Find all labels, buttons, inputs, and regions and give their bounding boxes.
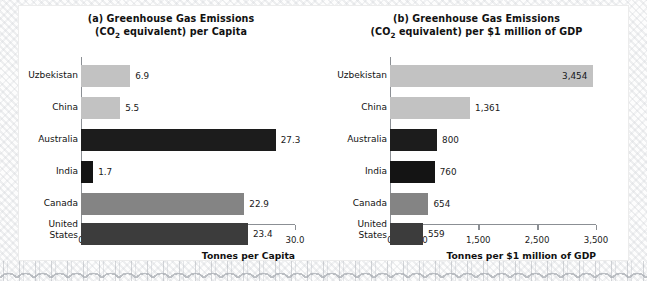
chart-b-title-line1: (b) Greenhouse Gas Emissions (324, 13, 629, 26)
bar (390, 129, 437, 151)
chart-b-title-line2: (CO2 equivalent) per $1 million of GDP (324, 26, 629, 42)
category-label: Australia (327, 134, 387, 145)
bar: 3,454 (390, 65, 593, 87)
chart-a-title-line2: (CO2 equivalent) per Capita (18, 26, 324, 42)
chart-a-title-line1: (a) Greenhouse Gas Emissions (18, 13, 324, 26)
bar (390, 223, 423, 245)
figure-container: (a) Greenhouse Gas Emissions (CO2 equiva… (0, 0, 647, 281)
bar-row: 1,361 (390, 97, 500, 119)
bar-value-label: 760 (440, 167, 457, 177)
bar (81, 161, 93, 183)
bar-value-label: 27.3 (281, 135, 301, 145)
charts-row: (a) Greenhouse Gas Emissions (CO2 equiva… (18, 5, 629, 255)
x-axis-tick (537, 225, 538, 230)
x-axis-tick-label: 1,500 (466, 235, 491, 245)
bar-value-label: 800 (442, 135, 459, 145)
bar-value-label: 23.4 (253, 229, 273, 239)
category-label: India (20, 166, 78, 177)
bar (81, 193, 244, 215)
bar-row: 27.3 (81, 129, 300, 151)
x-axis-tick (596, 225, 597, 230)
x-axis-tick-label: 30.0 (285, 235, 304, 245)
chart-panel-b: (b) Greenhouse Gas Emissions (CO2 equiva… (324, 5, 629, 255)
category-label: Australia (20, 134, 78, 145)
category-label: Canada (20, 198, 78, 209)
x-axis-tick-label: 2,500 (525, 235, 550, 245)
bar (81, 129, 276, 151)
bar (81, 65, 130, 87)
x-axis-tick (295, 225, 296, 230)
category-label: Canada (327, 198, 387, 209)
page-edge-scallop-decoration (0, 261, 647, 281)
bar-row: 760 (390, 161, 457, 183)
bar-row: 5.5 (81, 97, 139, 119)
category-label: United States (20, 219, 78, 240)
category-label: China (327, 102, 387, 113)
chart-a-title: (a) Greenhouse Gas Emissions (CO2 equiva… (18, 13, 324, 42)
bar-row: 23.4 (81, 223, 273, 245)
bar (81, 97, 120, 119)
bar-row: 559 (390, 223, 445, 245)
bar (390, 97, 470, 119)
bar-value-label: 5.5 (125, 103, 139, 113)
chart-b-x-axis-label: Tonnes per $1 million of GDP (447, 250, 597, 261)
chart-b-title-line2-pre: (CO (371, 26, 391, 37)
bar-row: 800 (390, 129, 459, 151)
bar-value-label: 1.7 (98, 167, 112, 177)
bar (81, 223, 248, 245)
bar-row: 22.9 (81, 193, 269, 215)
chart-a-x-axis-label: Tonnes per Capita (202, 250, 295, 261)
category-label: India (327, 166, 387, 177)
bar-value-label: 22.9 (249, 199, 269, 209)
bar (390, 161, 435, 183)
chart-b-plot-area: Tonnes per $1 million of GDP 05001,5002,… (390, 57, 596, 225)
bar-row: 6.9 (81, 65, 149, 87)
bar-value-label: 3,454 (562, 71, 587, 81)
x-axis-tick-label: 3,500 (584, 235, 609, 245)
bar-value-label: 6.9 (135, 71, 149, 81)
chart-a-title-line2-post: equivalent) per Capita (120, 26, 247, 37)
x-axis-tick (478, 225, 479, 230)
category-label: Uzbekistan (327, 70, 387, 81)
chart-b-title: (b) Greenhouse Gas Emissions (CO2 equiva… (324, 13, 629, 42)
chart-panel-a: (a) Greenhouse Gas Emissions (CO2 equiva… (18, 5, 324, 255)
category-label: Uzbekistan (20, 70, 78, 81)
bar-row: 654 (390, 193, 450, 215)
category-label: United States (327, 219, 387, 240)
chart-b-title-line2-post: equivalent) per $1 million of GDP (396, 26, 583, 37)
bar (390, 193, 428, 215)
bar-row: 3,454 (390, 65, 593, 87)
chart-a-title-line2-pre: (CO (95, 26, 115, 37)
chart-a-plot-area: Tonnes per Capita 010.020.030.06.9Uzbeki… (81, 57, 295, 225)
bar-row: 1.7 (81, 161, 112, 183)
bar-value-label: 1,361 (475, 103, 500, 113)
category-label: China (20, 102, 78, 113)
bar-value-label: 559 (428, 229, 445, 239)
bar-value-label: 654 (433, 199, 450, 209)
